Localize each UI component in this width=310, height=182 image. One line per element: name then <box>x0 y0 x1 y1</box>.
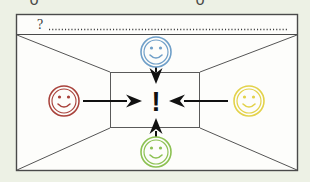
perspective-room-diagram: ? <box>0 0 310 182</box>
face-bottom-outer-ring <box>141 137 171 167</box>
face-left-eye-right <box>67 95 70 98</box>
question-mark: ? <box>37 17 43 32</box>
face-bottom-eye-right <box>159 146 162 149</box>
center-exclamation-mark: ! <box>152 87 161 117</box>
face-right-outer-ring <box>234 86 264 116</box>
face-top[interactable] <box>141 37 171 67</box>
face-left-eye-left <box>58 95 61 98</box>
face-left-outer-ring <box>49 86 79 116</box>
face-left[interactable] <box>49 86 79 116</box>
face-top-eye-left <box>150 46 153 49</box>
face-right-eye-right <box>252 95 255 98</box>
face-right-eye-left <box>243 95 246 98</box>
diagram-canvas: o o ? <box>0 0 310 182</box>
face-bottom[interactable] <box>141 137 171 167</box>
face-top-outer-ring <box>141 37 171 67</box>
face-top-eye-right <box>159 46 162 49</box>
face-right[interactable] <box>234 86 264 116</box>
face-bottom-eye-left <box>150 146 153 149</box>
